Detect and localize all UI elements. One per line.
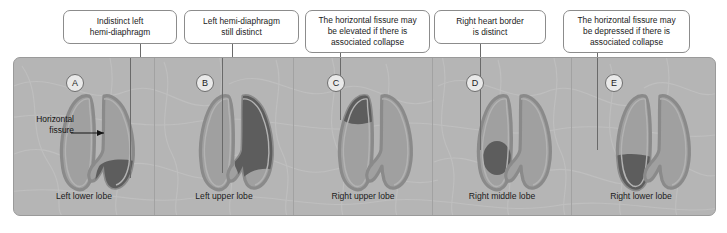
panel-badge-a-label: A	[72, 79, 78, 88]
caption-panel-d: Right middle lobe	[442, 191, 562, 201]
leader-line-panel-d	[480, 44, 481, 57]
callout-line: associated collapse	[331, 37, 404, 47]
leader-line-panel-b-inner	[222, 58, 223, 173]
leader-line-panel-e-inner	[597, 58, 598, 150]
callout-line: The horizontal fissure may	[318, 15, 416, 25]
leader-line-panel-d-inner	[480, 58, 481, 150]
panel-badge-e-label: E	[611, 79, 617, 88]
caption-panel-a: Left lower lobe	[24, 191, 144, 201]
caption-panel-b: Left upper lobe	[164, 191, 284, 201]
callout-panel-c-text: The horizontal fissure may be elevated i…	[318, 15, 416, 48]
panel-badge-e: E	[605, 74, 623, 92]
callout-panel-c: The horizontal fissure may be elevated i…	[305, 10, 430, 53]
callout-panel-a: Indistinct left hemi-diaphragm	[63, 10, 177, 44]
caption-panel-c: Right upper lobe	[303, 191, 423, 201]
caption-panel-e: Right lower lobe	[581, 191, 701, 201]
diagram-frame: A B C D E Left lower lobe Left upper lob…	[13, 57, 716, 216]
callout-panel-e: The horizontal fissure may be depressed …	[563, 10, 690, 53]
callout-panel-a-text: Indistinct left hemi-diaphragm	[90, 16, 151, 38]
callout-panel-d: Right heart border is distinct	[434, 10, 546, 44]
callout-line: is distinct	[473, 27, 507, 37]
panel-badge-b-label: B	[202, 79, 208, 88]
panel-badge-b: B	[196, 74, 214, 92]
lung-right-silhouette	[228, 88, 277, 188]
callout-panel-d-text: Right heart border is distinct	[456, 16, 524, 38]
callout-line: Indistinct left	[97, 16, 144, 26]
leader-line-panel-a	[140, 44, 141, 57]
callout-line: The horizontal fissure may	[577, 15, 675, 25]
leader-line-panel-b	[232, 44, 233, 57]
callout-panel-b-text: Left hemi-diaphragm still distinct	[203, 16, 280, 38]
panel-badge-c-label: C	[333, 79, 340, 88]
callout-line: be depressed if there is	[583, 26, 670, 36]
panel-badge-c: C	[327, 74, 345, 92]
callout-line: hemi-diaphragm	[90, 27, 151, 37]
leader-line-panel-a-inner	[130, 58, 131, 178]
horizontal-fissure-label: Horizontal fissure	[13, 114, 74, 136]
callout-line: Right heart border	[456, 16, 524, 26]
callout-line: still distinct	[221, 27, 262, 37]
figure-root: Indistinct left hemi-diaphragm Left hemi…	[0, 0, 727, 233]
panel-badge-d-label: D	[472, 79, 479, 88]
horizontal-fissure-label-line1: Horizontal	[36, 114, 74, 124]
callout-panel-b: Left hemi-diaphragm still distinct	[184, 10, 299, 44]
horizontal-fissure-arrow-icon	[71, 128, 113, 138]
callout-panel-e-text: The horizontal fissure may be depressed …	[577, 15, 675, 48]
callout-line: Left hemi-diaphragm	[203, 16, 280, 26]
panel-badge-a: A	[66, 74, 84, 92]
panel-badge-d: D	[466, 74, 484, 92]
callout-line: associated collapse	[590, 37, 663, 47]
callout-line: be elevated if there is	[328, 26, 408, 36]
